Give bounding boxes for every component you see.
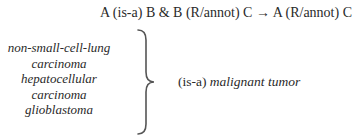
- inference-rule: A (is-a) B & B (R/annot) C → A (R/annot)…: [100, 5, 352, 21]
- relation-label: (is-a): [178, 74, 206, 89]
- right-curly-brace-icon: [136, 28, 160, 135]
- term-item: non-small-cell-lung: [0, 40, 118, 56]
- term-item: carcinoma: [0, 87, 118, 103]
- term-list: non-small-cell-lung carcinoma hepatocell…: [0, 40, 118, 118]
- target-term: malignant tumor: [210, 74, 300, 89]
- result-statement: (is-a) malignant tumor: [178, 74, 300, 90]
- term-item: glioblastoma: [0, 102, 118, 118]
- term-item: hepatocellular: [0, 71, 118, 87]
- term-item: carcinoma: [0, 56, 118, 72]
